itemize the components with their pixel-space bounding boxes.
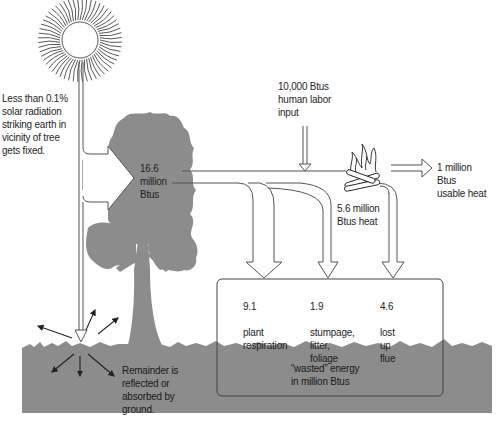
fire-heat-label: 5.6 million Btus heat [337, 202, 380, 228]
solar-fixation-label: Less than 0.1% solar radiation striking … [2, 92, 68, 157]
wasted-item-label: stumpage, litter, foliage [310, 326, 355, 365]
wasted-item-flue: 4.6 lost up flue [380, 287, 395, 378]
wasted-item-label: lost up flue [380, 326, 395, 365]
energy-pipe [172, 126, 432, 278]
labor-input-label: 10,000 Btus human labor input [278, 80, 331, 119]
ground-remainder-label: Remainder is reflected or absorbed by gr… [122, 364, 178, 416]
sun-icon [38, 0, 122, 82]
tree-icon [86, 112, 198, 345]
wasted-item-value: 1.9 [310, 300, 355, 313]
wasted-item-value: 9.1 [243, 300, 287, 313]
wasted-item-value: 4.6 [380, 300, 395, 313]
tree-energy-label: 16.6 million Btus [140, 162, 167, 201]
wasted-item-label: plant respiration [243, 326, 287, 352]
wasted-energy-caption: “wasted” energy in million Btus [291, 362, 359, 388]
fire-icon [344, 144, 380, 192]
usable-heat-label: 1 million Btus usable heat [437, 161, 486, 200]
wasted-item-plant-respiration: 9.1 plant respiration [243, 287, 287, 365]
